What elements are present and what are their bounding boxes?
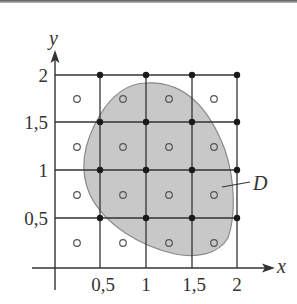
x-tick-label: 1 [141, 274, 151, 295]
y-tick-label: 2 [39, 65, 49, 86]
riemann-sum-diagram: D y x 2 1,5 1 0,5 0,5 1 1,5 2 [0, 0, 297, 304]
region-d [84, 83, 233, 256]
x-tick-label: 1,5 [182, 274, 206, 295]
y-tick-label: 0,5 [24, 208, 48, 229]
region-label: D [252, 172, 268, 194]
x-axis-label: x [276, 255, 286, 277]
y-axis-label: y [47, 27, 58, 50]
y-tick-label: 1 [39, 160, 49, 181]
y-tick-label: 1,5 [24, 112, 48, 133]
x-tick-label: 2 [232, 274, 242, 295]
x-tick-label: 0,5 [91, 274, 115, 295]
